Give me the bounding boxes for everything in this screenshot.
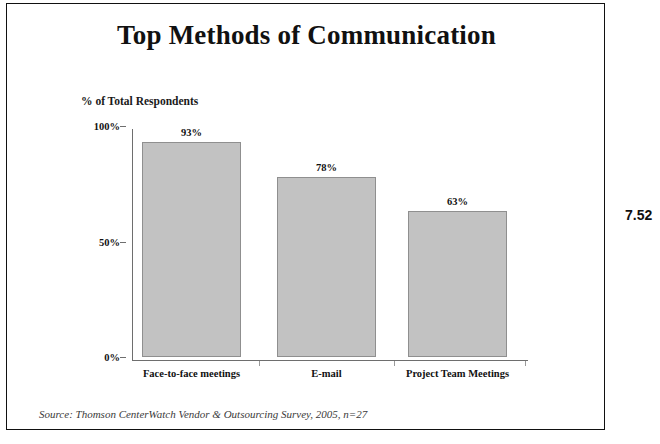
y-axis-tick-label: 100%: [50, 121, 120, 132]
bar: [408, 211, 507, 357]
x-axis-category-label: E-mail: [251, 368, 402, 379]
y-axis-tick: [120, 126, 126, 127]
y-axis-tick-label: 50%: [50, 236, 120, 247]
bar-value-label: 78%: [277, 162, 376, 173]
slide-frame: Top Methods of Communication % of Total …: [6, 3, 605, 430]
x-axis-category-label: Project Team Meetings: [382, 368, 533, 379]
x-axis-line: [132, 360, 528, 361]
y-axis-tick-label-wrap: 100%: [50, 126, 120, 127]
y-axis-tick-label-wrap: 50%: [50, 242, 120, 243]
source-note: Source: Thomson CenterWatch Vendor & Out…: [39, 408, 367, 420]
bar: [142, 142, 241, 357]
page-number: 7.52: [625, 207, 652, 223]
y-axis-title: % of Total Respondents: [81, 95, 198, 107]
y-axis-tick-label-wrap: 0%: [50, 357, 120, 358]
x-axis-tick: [394, 361, 395, 366]
y-axis-tick-label: 0%: [50, 352, 120, 363]
page-title: Top Methods of Communication: [7, 20, 606, 51]
bar: [277, 177, 376, 357]
y-axis-tick: [120, 357, 126, 358]
x-axis-tick: [525, 361, 526, 366]
bar-value-label: 93%: [142, 127, 241, 138]
x-axis-tick: [259, 361, 260, 366]
y-axis-line: [132, 129, 133, 361]
y-axis-tick: [120, 242, 126, 243]
bar-value-label: 63%: [408, 196, 507, 207]
x-axis-category-label: Face-to-face meetings: [116, 368, 267, 379]
